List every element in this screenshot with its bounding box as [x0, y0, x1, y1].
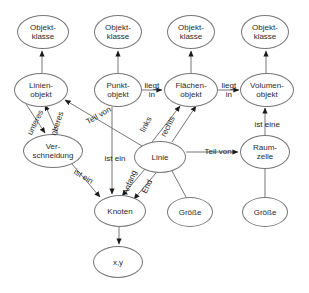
node-label: Objekt- klasse [178, 23, 204, 41]
edge-label-liegt-in-1: liegt in [145, 81, 160, 99]
node-label: Objekt- klasse [105, 23, 131, 41]
node-label: Größe [254, 208, 277, 217]
node-ok1[interactable]: Objekt- klasse [17, 15, 69, 49]
node-label: Raum- zelle [253, 143, 277, 161]
node-volumenobjekt[interactable]: Volumen- objekt [240, 73, 294, 107]
node-linienobjekt[interactable]: Linien- objekt [14, 73, 68, 107]
node-label: Flächen- objekt [175, 81, 206, 99]
node-label: Ver- schneidung [33, 142, 74, 160]
edge-label-ist-eine: ist eine [255, 120, 280, 129]
node-ok4[interactable]: Objekt- klasse [241, 15, 289, 49]
node-punktobjekt[interactable]: Punkt- objekt [94, 73, 142, 107]
node-groesse2[interactable]: Größe [242, 197, 288, 227]
edge-label-teil-von-raumzelle: Teil von [205, 147, 232, 156]
node-knoten[interactable]: Knoten [94, 195, 146, 227]
node-linie[interactable]: Linie [134, 141, 186, 173]
edge-label-ist-ein-punkt: ist ein [105, 154, 126, 163]
node-label: Knoten [107, 207, 132, 216]
node-label: Größe [179, 208, 202, 217]
node-flaechenobjekt[interactable]: Flächen- objekt [164, 73, 218, 107]
node-groesse1[interactable]: Größe [167, 197, 213, 227]
node-raumzelle[interactable]: Raum- zelle [240, 135, 290, 169]
node-label: Linie [152, 153, 169, 162]
node-label: x,y [113, 258, 123, 267]
edge-linie-groesse [172, 171, 186, 197]
node-label: Linien- objekt [29, 81, 53, 99]
node-verschneidung[interactable]: Ver- schneidung [23, 134, 83, 168]
node-label: Objekt- klasse [30, 23, 56, 41]
diagram-canvas: Objekt- klasseObjekt- klasseObjekt- klas… [0, 0, 309, 293]
node-label: Objekt- klasse [252, 23, 278, 41]
edge-label-liegt-in-2: liegt in [222, 81, 237, 99]
node-xy[interactable]: x,y [93, 246, 143, 278]
node-ok2[interactable]: Objekt- klasse [94, 15, 142, 49]
node-label: Volumen- objekt [250, 81, 284, 99]
node-ok3[interactable]: Objekt- klasse [167, 15, 215, 49]
node-label: Punkt- objekt [106, 81, 129, 99]
